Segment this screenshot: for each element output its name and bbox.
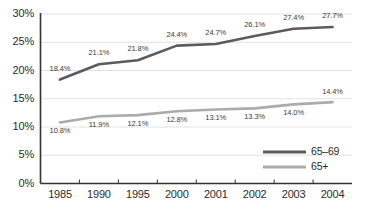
data-point-label: 12.1%	[123, 119, 153, 128]
y-axis-tick-label: 30%	[0, 7, 34, 19]
y-axis-tick-label: 10%	[0, 120, 34, 132]
data-point-label: 18.4%	[45, 64, 75, 73]
data-point-label: 21.1%	[84, 48, 114, 57]
y-axis-tick-label: 15%	[0, 92, 34, 104]
data-point-label: 24.4%	[162, 30, 192, 39]
y-axis-tick-label: 0%	[0, 177, 34, 189]
data-point-label: 14.4%	[318, 87, 348, 96]
x-axis-tick-label: 1990	[79, 188, 119, 200]
x-axis-tick-label: 1995	[118, 188, 158, 200]
data-point-label: 10.8%	[45, 126, 75, 135]
line-chart: 0%5%10%15%20%25%30%198519901995200020012…	[0, 0, 368, 215]
data-point-label: 21.8%	[123, 44, 153, 53]
x-axis-tick-label: 2000	[157, 188, 197, 200]
data-point-label: 13.3%	[240, 112, 270, 121]
data-point-label: 26.1%	[240, 20, 270, 29]
y-axis-tick-label: 5%	[0, 148, 34, 160]
legend-label-2: 65+	[311, 160, 328, 172]
data-point-label: 27.7%	[318, 11, 348, 20]
x-axis-tick-label: 2002	[235, 188, 275, 200]
y-axis-tick-label: 25%	[0, 35, 34, 47]
legend-label-1: 65–69	[311, 145, 339, 157]
data-point-label: 24.7%	[201, 28, 231, 37]
data-point-label: 12.8%	[162, 115, 192, 124]
data-point-label: 13.1%	[201, 113, 231, 122]
x-axis-tick-label: 1985	[40, 188, 80, 200]
data-point-label: 14.0%	[279, 108, 309, 117]
x-axis-tick-label: 2003	[274, 188, 314, 200]
data-point-label: 27.4%	[279, 13, 309, 22]
data-point-label: 11.9%	[84, 120, 114, 129]
x-axis-tick-label: 2004	[313, 188, 353, 200]
y-axis-tick-label: 20%	[0, 64, 34, 76]
x-axis-tick-label: 2001	[196, 188, 236, 200]
